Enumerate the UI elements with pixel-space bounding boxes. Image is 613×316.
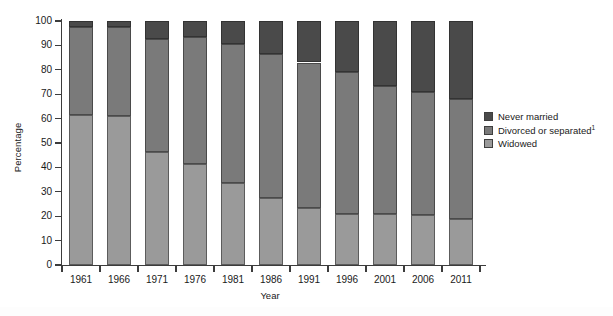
bar-segment-divorced-or-separated[interactable]	[69, 27, 93, 115]
bar-segment-never-married[interactable]	[373, 21, 397, 86]
y-axis-tick-label: 60	[8, 114, 52, 124]
bar-segment-divorced-or-separated[interactable]	[373, 86, 397, 214]
legend-item-label: Widowed	[498, 139, 537, 149]
legend-item[interactable]: Divorced or separated1	[484, 124, 612, 138]
x-axis-tick	[251, 266, 252, 272]
bar-group[interactable]	[259, 21, 283, 265]
stacked-bar-chart: Percentage Year 0102030405060708090100 1…	[0, 0, 613, 316]
x-axis-tick	[175, 266, 176, 272]
bar-segment-never-married[interactable]	[107, 21, 131, 27]
bar-segment-widowed[interactable]	[259, 198, 283, 265]
x-axis-tick	[213, 266, 214, 272]
legend-item-label: Divorced or separated1	[498, 126, 595, 136]
y-axis-tick-label: 40	[8, 162, 52, 172]
x-axis-tick	[61, 266, 62, 272]
bar-group[interactable]	[107, 21, 131, 265]
legend-item-label: Never married	[498, 112, 558, 122]
bar-group[interactable]	[335, 21, 359, 265]
bar-segment-widowed[interactable]	[69, 115, 93, 265]
y-axis-tick-label: 30	[8, 187, 52, 197]
bar-segment-widowed[interactable]	[335, 214, 359, 265]
y-axis-tick	[55, 191, 61, 192]
y-axis-tick	[55, 94, 61, 95]
y-axis-tick-label: 50	[8, 138, 52, 148]
scan-edge	[0, 307, 613, 316]
bar-group[interactable]	[411, 21, 435, 265]
bar-segment-never-married[interactable]	[449, 21, 473, 99]
legend-swatch-icon	[484, 112, 493, 121]
bar-segment-never-married[interactable]	[259, 21, 283, 54]
bar-segment-never-married[interactable]	[183, 21, 207, 37]
bar-segment-divorced-or-separated[interactable]	[183, 37, 207, 164]
bar-segment-never-married[interactable]	[69, 21, 93, 27]
bar-group[interactable]	[449, 21, 473, 265]
bar-segment-divorced-or-separated[interactable]	[221, 44, 245, 183]
y-axis-tick	[55, 264, 61, 265]
plot-area	[62, 21, 480, 265]
bar-segment-divorced-or-separated[interactable]	[259, 54, 283, 198]
bar-segment-never-married[interactable]	[297, 21, 321, 62]
bar-segment-divorced-or-separated[interactable]	[145, 39, 169, 151]
x-axis-tick	[403, 266, 404, 272]
y-axis-tick	[55, 45, 61, 46]
y-axis-tick-label: 70	[8, 89, 52, 99]
bar-group[interactable]	[297, 21, 321, 265]
bar-group[interactable]	[221, 21, 245, 265]
bar-segment-widowed[interactable]	[373, 214, 397, 265]
x-axis-tick	[289, 266, 290, 272]
legend-item[interactable]: Never married	[484, 110, 612, 124]
y-axis-tick	[55, 167, 61, 168]
bar-group[interactable]	[145, 21, 169, 265]
bar-segment-never-married[interactable]	[145, 21, 169, 39]
legend-footnote-marker: 1	[591, 123, 595, 130]
bar-segment-never-married[interactable]	[411, 21, 435, 92]
bar-segment-divorced-or-separated[interactable]	[335, 72, 359, 214]
bar-segment-divorced-or-separated[interactable]	[411, 92, 435, 215]
y-axis-tick-label: 90	[8, 40, 52, 50]
x-axis-tick	[365, 266, 366, 272]
bar-segment-widowed[interactable]	[145, 152, 169, 265]
x-axis-tick	[479, 266, 480, 272]
y-axis-tick-label: 20	[8, 211, 52, 221]
bar-segment-widowed[interactable]	[449, 219, 473, 265]
y-axis-tick-label: 80	[8, 65, 52, 75]
x-axis-tick	[99, 266, 100, 272]
x-axis-tick	[137, 266, 138, 272]
bar-segment-widowed[interactable]	[297, 208, 321, 265]
y-axis-tick	[55, 142, 61, 143]
bar-segment-never-married[interactable]	[221, 21, 245, 44]
y-axis-tick	[55, 20, 61, 21]
legend-item[interactable]: Widowed	[484, 137, 612, 151]
bar-segment-widowed[interactable]	[221, 183, 245, 265]
x-axis-title: Year	[60, 290, 480, 301]
legend-swatch-icon	[484, 139, 493, 148]
x-axis-tick	[327, 266, 328, 272]
y-axis-tick	[55, 118, 61, 119]
legend-swatch-icon	[484, 126, 493, 135]
bar-group[interactable]	[373, 21, 397, 265]
y-axis-tick-label: 0	[8, 260, 52, 270]
bar-group[interactable]	[183, 21, 207, 265]
bar-segment-never-married[interactable]	[335, 21, 359, 72]
x-axis-line	[61, 265, 486, 266]
bar-segment-divorced-or-separated[interactable]	[107, 27, 131, 116]
y-axis-tick	[55, 216, 61, 217]
y-axis-tick-label: 100	[8, 16, 52, 26]
bar-segment-widowed[interactable]	[183, 164, 207, 265]
chart-legend: Never marriedDivorced or separated1Widow…	[484, 110, 612, 151]
bar-segment-widowed[interactable]	[107, 116, 131, 265]
x-axis-tick-label: 2011	[436, 275, 486, 285]
bar-segment-divorced-or-separated[interactable]	[297, 63, 321, 208]
y-axis-tick	[55, 240, 61, 241]
bar-segment-divorced-or-separated[interactable]	[449, 99, 473, 219]
y-axis-tick-label: 10	[8, 236, 52, 246]
y-axis-tick	[55, 69, 61, 70]
x-axis-tick	[441, 266, 442, 272]
bar-segment-widowed[interactable]	[411, 215, 435, 265]
bar-group[interactable]	[69, 21, 93, 265]
